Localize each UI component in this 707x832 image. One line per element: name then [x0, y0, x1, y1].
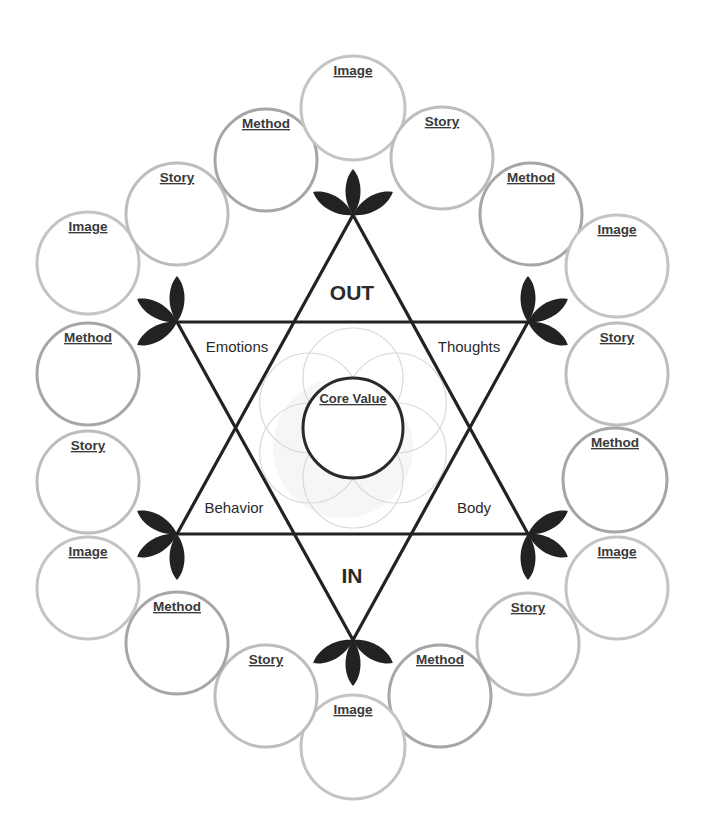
outer-circle-story: Story	[391, 107, 493, 209]
circle-label: Story	[71, 438, 106, 453]
circle-label: Story	[511, 600, 546, 615]
circle-label: Method	[64, 330, 112, 345]
core-value: Core Value	[303, 378, 403, 478]
circle-label: Image	[333, 63, 373, 78]
out-label: OUT	[330, 281, 375, 304]
hexagram-diagram: MethodImageStoryMethodImageStoryMethodIm…	[0, 0, 707, 832]
outer-circle-method: Method	[389, 645, 491, 747]
behavior-label: Behavior	[204, 499, 263, 516]
emotions-label: Emotions	[206, 338, 269, 355]
circle-label: Story	[160, 170, 195, 185]
circle-label: Story	[425, 114, 460, 129]
thoughts-label: Thoughts	[438, 338, 501, 355]
circle-label: Image	[333, 702, 373, 717]
circle-label: Method	[507, 170, 555, 185]
outer-circle-image: Image	[37, 537, 139, 639]
circle-label: Method	[153, 599, 201, 614]
outer-circle-story: Story	[566, 323, 668, 425]
circle-label: Story	[249, 652, 284, 667]
outer-circle-image: Image	[566, 537, 668, 639]
outer-circle-method: Method	[215, 109, 317, 211]
in-label: IN	[342, 564, 363, 587]
outer-circle-image: Image	[37, 212, 139, 314]
circle-label: Method	[416, 652, 464, 667]
leaf-cluster-top	[309, 169, 396, 221]
core-value-label: Core Value	[319, 391, 386, 406]
outer-circle-story: Story	[37, 431, 139, 533]
outer-circle-method: Method	[480, 163, 582, 265]
outer-circle-story: Story	[126, 163, 228, 265]
circle-label: Story	[600, 330, 635, 345]
leaf-cluster-lower-right	[521, 505, 572, 580]
circle-label: Image	[597, 544, 637, 559]
circle-label: Image	[68, 544, 108, 559]
outer-circle-method: Method	[37, 323, 139, 425]
outer-circle-method: Method	[563, 428, 667, 532]
outer-circle-image: Image	[301, 695, 405, 799]
circle-label: Image	[597, 222, 637, 237]
outer-circle-image: Image	[301, 56, 405, 160]
leaf-cluster-bottom	[309, 634, 396, 686]
body-label: Body	[457, 499, 492, 516]
leaf-cluster-lower-left	[133, 505, 184, 580]
circle-label: Image	[68, 219, 108, 234]
leaf-cluster-upper-right	[521, 276, 572, 351]
circle-label: Method	[242, 116, 290, 131]
circle-label: Method	[591, 435, 639, 450]
outer-circle-story: Story	[215, 645, 317, 747]
leaf-cluster-upper-left	[133, 276, 184, 351]
outer-circle-method: Method	[126, 592, 228, 694]
outer-circle-story: Story	[477, 593, 579, 695]
outer-circle-image: Image	[566, 215, 668, 317]
